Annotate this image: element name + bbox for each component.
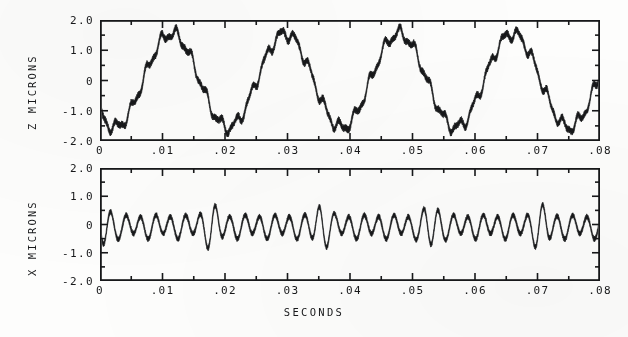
y-tick-label: 1.0	[70, 44, 94, 57]
waveform-trace	[100, 24, 600, 137]
y-tick-label: -2.0	[62, 275, 94, 288]
plot-area-x	[100, 168, 600, 281]
x-tick-label: .02	[213, 144, 236, 157]
x-tick-label: .04	[338, 144, 361, 157]
y-tick-labels-x: 2.0 1.0 0 -1.0 -2.0	[46, 168, 94, 281]
x-tick-labels-x: 0 .01 .02 .03 .04 .05 .06 .07 .08	[100, 284, 600, 300]
x-tick-label: .03	[276, 144, 299, 157]
x-tick-label: .03	[276, 284, 299, 297]
x-tick-label: .06	[463, 284, 486, 297]
x-axis-label: SECONDS	[0, 306, 628, 318]
x-tick-label: .08	[588, 144, 611, 157]
plot-frame	[101, 21, 599, 140]
y-tick-label: 1.0	[70, 190, 94, 203]
x-tick-label: 0	[96, 284, 104, 297]
x-tick-label: .08	[588, 284, 611, 297]
plot-panel-x	[100, 168, 600, 281]
y-tick-label: 0	[86, 74, 94, 87]
x-tick-labels-z: 0 .01 .02 .03 .04 .05 .06 .07 .08	[100, 144, 600, 160]
x-tick-label: .05	[401, 284, 424, 297]
x-tick-label: .01	[151, 284, 174, 297]
y-axis-label-z: Z MICRONS	[26, 34, 38, 130]
x-tick-label: .02	[213, 284, 236, 297]
x-tick-label: .07	[526, 284, 549, 297]
seismic-waveform-figure: Z MICRONS 2.0 1.0 0 -1.0 -2.0 0 .01 .02 …	[0, 0, 628, 337]
x-tick-label: .05	[401, 144, 424, 157]
y-tick-label: -1.0	[62, 246, 94, 259]
waveform-trace	[100, 202, 600, 251]
plot-panel-z	[100, 20, 600, 141]
y-tick-label: -2.0	[62, 135, 94, 148]
plot-area-z	[100, 20, 600, 141]
x-tick-label: .06	[463, 144, 486, 157]
y-axis-label-x: X MICRONS	[26, 180, 38, 276]
x-tick-label: .04	[338, 284, 361, 297]
y-tick-labels-z: 2.0 1.0 0 -1.0 -2.0	[46, 20, 94, 141]
y-tick-label: -1.0	[62, 104, 94, 117]
y-tick-label: 2.0	[70, 162, 94, 175]
x-tick-label: .07	[526, 144, 549, 157]
x-tick-label: .01	[151, 144, 174, 157]
y-tick-label: 0	[86, 218, 94, 231]
y-tick-label: 2.0	[70, 14, 94, 27]
x-tick-label: 0	[96, 144, 104, 157]
